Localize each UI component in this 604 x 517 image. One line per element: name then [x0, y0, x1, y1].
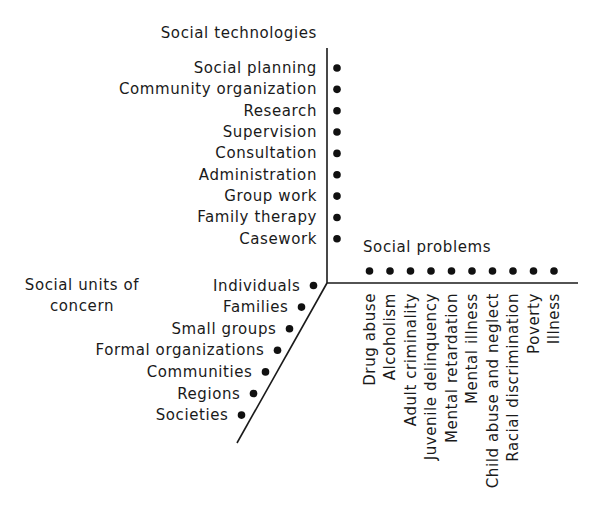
technology-dot [333, 171, 341, 179]
problem-dot [489, 267, 497, 275]
technology-label: Group work [224, 187, 317, 205]
problem-item-alcoholism: Alcoholism [381, 267, 399, 380]
unit-dot [298, 303, 306, 311]
technology-item-community-organization: Community organization [119, 80, 341, 98]
technology-dot [333, 128, 341, 136]
problem-label: Mental illness [463, 293, 481, 404]
problem-label: Child abuse and neglect [484, 293, 502, 488]
technology-label: Supervision [223, 123, 317, 141]
problem-item-child-abuse-and-neglect: Child abuse and neglect [484, 267, 502, 488]
problem-dot [509, 267, 517, 275]
technology-dot [333, 214, 341, 222]
problem-dot [427, 267, 435, 275]
problem-dot [407, 267, 415, 275]
problem-label: Adult criminality [402, 293, 420, 426]
problem-item-juvenile-delinquency: Juvenile delinquency [422, 267, 440, 461]
unit-dot [310, 282, 318, 290]
social-work-dimensions-diagram: Social technologies Social problems Soci… [0, 0, 604, 517]
problems-items: Drug abuseAlcoholismAdult criminalityJuv… [361, 267, 564, 488]
problem-dot [550, 267, 558, 275]
problem-item-mental-illness: Mental illness [463, 267, 481, 404]
problem-item-drug-abuse: Drug abuse [361, 267, 379, 386]
technology-dot [333, 86, 341, 94]
problem-dot [366, 267, 374, 275]
technology-item-casework: Casework [239, 230, 341, 248]
problem-item-adult-criminality: Adult criminality [402, 267, 420, 426]
units-axis-title-line-2: concern [50, 297, 114, 315]
unit-item-families: Families [223, 298, 305, 316]
units-axis-title-line-1: Social units of [25, 276, 139, 294]
unit-label: Societies [156, 406, 229, 424]
problem-label: Mental retardation [443, 293, 461, 443]
unit-item-small-groups: Small groups [171, 320, 293, 338]
unit-label: Regions [177, 385, 240, 403]
problems-axis-title: Social problems [363, 238, 491, 256]
technologies-axis-title: Social technologies [161, 24, 317, 42]
problem-dot [448, 267, 456, 275]
unit-item-communities: Communities [147, 363, 270, 381]
unit-item-societies: Societies [156, 406, 246, 424]
technology-item-research: Research [243, 102, 340, 120]
technology-dot [333, 235, 341, 243]
technology-item-supervision: Supervision [223, 123, 341, 141]
technology-label: Casework [239, 230, 317, 248]
technology-item-group-work: Group work [224, 187, 341, 205]
unit-label: Small groups [171, 320, 276, 338]
problem-label: Illness [545, 293, 563, 344]
unit-dot [262, 368, 270, 376]
unit-dot [238, 411, 246, 419]
technology-label: Consultation [215, 144, 317, 162]
problem-item-poverty: Poverty [525, 267, 543, 354]
technology-item-social-planning: Social planning [194, 59, 341, 77]
problem-label: Poverty [525, 293, 543, 354]
problem-item-racial-discrimination: Racial discrimination [504, 267, 522, 462]
unit-dot [250, 390, 258, 398]
unit-label: Communities [147, 363, 253, 381]
technology-label: Community organization [119, 80, 317, 98]
technology-label: Social planning [194, 59, 317, 77]
unit-item-regions: Regions [177, 385, 257, 403]
problem-dot [468, 267, 476, 275]
problem-dot [386, 267, 394, 275]
unit-label: Individuals [213, 277, 300, 295]
unit-label: Families [223, 298, 288, 316]
unit-dot [286, 325, 294, 333]
technology-dot [333, 107, 341, 115]
technology-dot [333, 64, 341, 72]
unit-item-individuals: Individuals [213, 277, 317, 295]
problem-dot [530, 267, 538, 275]
technology-label: Research [243, 102, 317, 120]
technologies-items: Social planningCommunity organizationRes… [119, 59, 341, 248]
technology-item-family-therapy: Family therapy [197, 208, 341, 226]
problem-item-mental-retardation: Mental retardation [443, 267, 461, 443]
technology-dot [333, 150, 341, 158]
problem-item-illness: Illness [545, 267, 563, 344]
technology-label: Family therapy [197, 208, 317, 226]
units-items: IndividualsFamiliesSmall groupsFormal or… [96, 277, 318, 425]
technology-label: Administration [199, 166, 317, 184]
problem-label: Juvenile delinquency [422, 293, 440, 461]
technology-item-consultation: Consultation [215, 144, 340, 162]
unit-label: Formal organizations [96, 341, 265, 359]
problem-label: Racial discrimination [504, 293, 522, 462]
technology-dot [333, 192, 341, 200]
problem-label: Alcoholism [381, 293, 399, 380]
unit-dot [274, 347, 282, 355]
technology-item-administration: Administration [199, 166, 341, 184]
problem-label: Drug abuse [361, 293, 379, 386]
unit-item-formal-organizations: Formal organizations [96, 341, 282, 359]
